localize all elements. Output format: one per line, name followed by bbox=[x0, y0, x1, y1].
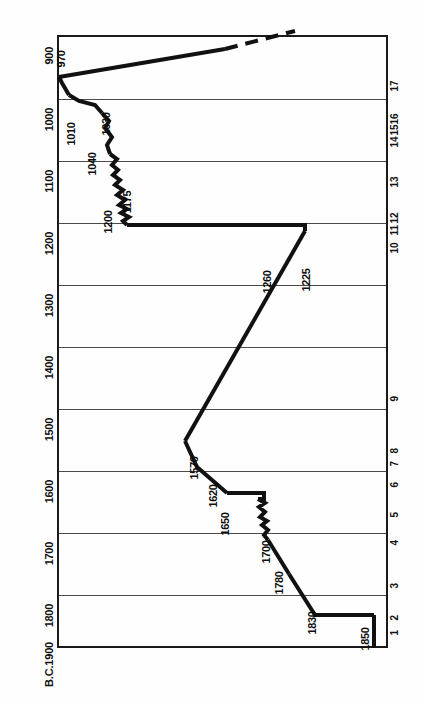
curve-segment-1010 bbox=[59, 77, 69, 95]
year-tick-1400: 1400 bbox=[43, 356, 55, 379]
curve-segment-dashed-extrapolation bbox=[225, 31, 295, 49]
item-tick-8: 8 bbox=[389, 448, 400, 454]
point-label-1260: 1260 bbox=[261, 271, 273, 294]
year-tick-1200: 1200 bbox=[43, 232, 55, 255]
point-label-1010: 1010 bbox=[65, 123, 77, 146]
curve-segment-1830 bbox=[289, 574, 374, 615]
item-tick-3: 3 bbox=[389, 583, 400, 589]
item-tick-16: 16 bbox=[389, 113, 400, 124]
curve-segment-970 bbox=[59, 49, 225, 77]
point-label-1850: 1850 bbox=[359, 628, 371, 651]
year-tick-1300: 1300 bbox=[43, 294, 55, 317]
curve-segment-1700 bbox=[258, 499, 268, 540]
item-tick-11: 11 bbox=[389, 225, 400, 236]
curve-segment-1650 bbox=[227, 493, 264, 499]
point-label-1700: 1700 bbox=[260, 541, 272, 564]
point-label-1830: 1830 bbox=[306, 612, 318, 635]
curve-segment-1030 bbox=[69, 95, 102, 113]
year-tick-900: 900 bbox=[43, 47, 55, 64]
point-label-1175: 1175 bbox=[121, 191, 133, 213]
item-tick-4: 4 bbox=[389, 540, 400, 546]
point-label-1570: 1570 bbox=[188, 457, 200, 480]
curve-segment-1260 bbox=[185, 231, 305, 441]
point-label-1030: 1030 bbox=[100, 113, 112, 136]
item-tick-9: 9 bbox=[389, 396, 400, 402]
item-tick-6: 6 bbox=[389, 482, 400, 488]
item-tick-14: 14 bbox=[389, 136, 400, 147]
item-tick-13: 13 bbox=[389, 176, 400, 187]
point-label-1620: 1620 bbox=[207, 485, 219, 508]
chart-canvas: 900 1000 1100 1200 1300 1400 1500 1600 1… bbox=[0, 0, 424, 707]
item-tick-17: 17 bbox=[389, 80, 400, 91]
item-tick-15: 15 bbox=[389, 124, 400, 135]
item-tick-7: 7 bbox=[389, 461, 400, 467]
year-tick-1700: 1700 bbox=[43, 542, 55, 565]
item-tick-1: 1 bbox=[389, 630, 400, 636]
point-label-1650: 1650 bbox=[219, 513, 231, 536]
year-tick-1600: 1600 bbox=[43, 480, 55, 503]
item-tick-5: 5 bbox=[389, 512, 400, 518]
year-tick-1500: 1500 bbox=[43, 418, 55, 441]
item-tick-12: 12 bbox=[389, 212, 400, 223]
item-number-axis: 17 16 15 14 13 12 11 10 9 8 7 6 5 4 3 2 … bbox=[388, 0, 424, 707]
item-tick-10: 10 bbox=[389, 242, 400, 253]
point-label-1225: 1225 bbox=[300, 269, 312, 292]
point-label-1780: 1780 bbox=[273, 572, 285, 595]
point-label-1040: 1040 bbox=[86, 153, 98, 176]
year-axis-corner-label: B.C.1900 bbox=[43, 642, 55, 687]
year-tick-1000: 1000 bbox=[43, 108, 55, 131]
curve-segment-1225 bbox=[127, 225, 305, 231]
point-label-970: 970 bbox=[55, 50, 67, 67]
point-label-1200: 1200 bbox=[102, 211, 114, 234]
year-axis: 900 1000 1100 1200 1300 1400 1500 1600 1… bbox=[0, 0, 57, 707]
year-tick-1100: 1100 bbox=[43, 170, 55, 193]
item-tick-2: 2 bbox=[389, 615, 400, 621]
year-tick-1800: 1800 bbox=[43, 604, 55, 627]
